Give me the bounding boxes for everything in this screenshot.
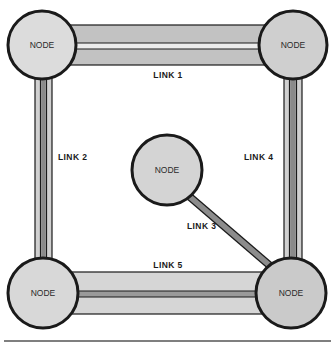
network-diagram: NODE NODE NODE NODE NODE LINK 1 LINK 2 L… xyxy=(0,0,335,346)
link-4-label: LINK 4 xyxy=(244,152,273,162)
node-label: NODE xyxy=(30,40,55,50)
link-3 xyxy=(190,197,275,270)
node-label: NODE xyxy=(281,40,306,50)
node-bottom-right: NODE xyxy=(256,258,326,328)
link-1-label: LINK 1 xyxy=(153,70,182,80)
node-label: NODE xyxy=(279,288,304,298)
node-label: NODE xyxy=(31,288,56,298)
node-bottom-left: NODE xyxy=(8,258,78,328)
node-label: NODE xyxy=(155,165,180,175)
link-2-label: LINK 2 xyxy=(58,152,87,162)
link-5-label: LINK 5 xyxy=(153,260,182,270)
link-5-center-strip xyxy=(70,291,265,297)
node-center: NODE xyxy=(132,135,202,205)
node-top-left: NODE xyxy=(8,11,76,79)
link-3-fill xyxy=(190,197,275,270)
link-4-center-fill xyxy=(290,75,296,265)
link-3-label: LINK 3 xyxy=(187,221,216,231)
link-2-center-fill xyxy=(41,75,46,265)
link-4 xyxy=(284,75,302,265)
node-top-right: NODE xyxy=(259,11,327,79)
link-1-center-strip xyxy=(70,43,265,49)
link-1 xyxy=(70,25,265,65)
link-2 xyxy=(35,75,52,265)
link-5 xyxy=(70,272,265,314)
